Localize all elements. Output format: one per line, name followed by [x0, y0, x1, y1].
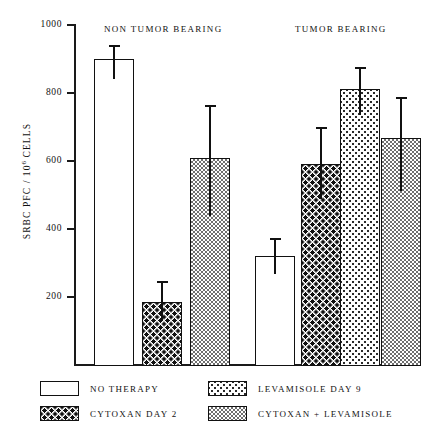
legend-swatch-cytoxan-levamisole: [208, 406, 247, 421]
legend-item-cytoxan-levamisole[interactable]: CYTOXAN + LEVAMISOLE: [208, 406, 393, 421]
y-axis-title: SRBC PFC / 106 CELLS: [20, 96, 32, 266]
y-tick-mark-200: [67, 296, 74, 298]
bar-chart-figure: 1000 800 600 400 200 SRBC PFC / 106 CELL…: [0, 0, 431, 446]
legend-swatch-cytoxan-day-2: [40, 406, 79, 421]
errorbar-stem: [400, 97, 402, 191]
legend-item-no-therapy[interactable]: NO THERAPY: [40, 381, 159, 396]
group-heading-tumor-bearing: TUMOR BEARING: [295, 24, 387, 34]
errorbar-stem: [320, 127, 322, 199]
errorbar-non-tumor-no-therapy: [94, 45, 134, 79]
y-tick-mark-800: [67, 92, 74, 94]
legend-item-levamisole-day-9[interactable]: LEVAMISOLE DAY 9: [208, 381, 362, 396]
bar-tumor-levamisole-day-9[interactable]: [340, 89, 380, 366]
legend-item-cytoxan-day-2[interactable]: CYTOXAN DAY 2: [40, 406, 177, 421]
errorbar-tumor-cytoxan-levamisole: [381, 97, 421, 191]
errorbar-stem: [359, 67, 361, 115]
y-tick-label-1000: 1000: [22, 19, 62, 29]
y-tick-mark-1000: [67, 24, 74, 26]
y-axis-title-main: SRBC PFC / 10: [22, 164, 32, 239]
legend-swatch-levamisole-day-9: [208, 381, 247, 396]
errorbar-non-tumor-cytoxan-levamisole: [190, 105, 230, 216]
legend-swatch-no-therapy: [40, 381, 79, 396]
legend-label-levamisole-day-9: LEVAMISOLE DAY 9: [258, 384, 362, 394]
errorbar-stem: [113, 45, 115, 79]
errorbar-stem: [161, 281, 163, 321]
y-axis-title-exponent: 6: [20, 161, 28, 165]
errorbar-tumor-cytoxan-day-2: [301, 127, 341, 199]
y-axis-line: [74, 24, 76, 366]
y-axis-title-tail: CELLS: [22, 123, 32, 161]
y-tick-mark-400: [67, 228, 74, 230]
errorbar-stem: [274, 238, 276, 274]
errorbar-stem: [209, 105, 211, 216]
legend-label-cytoxan-levamisole: CYTOXAN + LEVAMISOLE: [258, 409, 393, 419]
errorbar-non-tumor-cytoxan-day-2: [142, 281, 182, 321]
errorbar-tumor-levamisole-day-9: [340, 67, 380, 115]
y-tick-mark-600: [67, 160, 74, 162]
group-heading-non-tumor-bearing: NON TUMOR BEARING: [104, 24, 222, 34]
bar-non-tumor-no-therapy[interactable]: [94, 59, 134, 366]
legend-label-no-therapy: NO THERAPY: [90, 384, 159, 394]
legend-row: NO THERAPY LEVAMISOLE DAY 9: [40, 381, 425, 399]
y-tick-label-200: 200: [22, 291, 62, 301]
errorbar-tumor-no-therapy: [255, 238, 295, 274]
legend-label-cytoxan-day-2: CYTOXAN DAY 2: [90, 409, 177, 419]
legend-row: CYTOXAN DAY 2 CYTOXAN + LEVAMISOLE: [40, 406, 425, 424]
